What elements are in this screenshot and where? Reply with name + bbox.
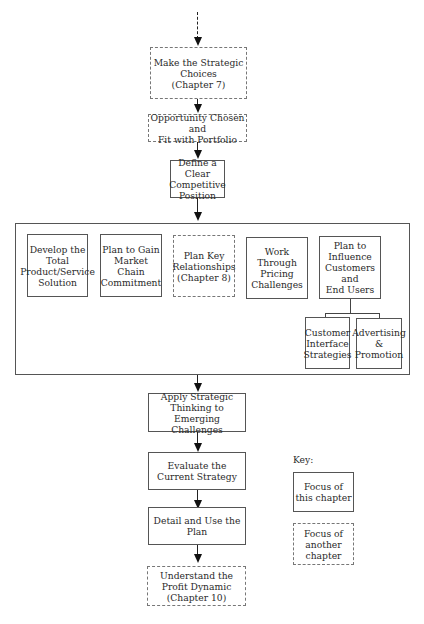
- define-competitive-position-box: Define a Clear Competitive Position: [170, 160, 225, 198]
- arrowhead-icon: [194, 212, 202, 221]
- profit-dynamic-text: Understand the Profit Dynamic (Chapter 1…: [160, 570, 233, 603]
- connector-line: [197, 198, 198, 213]
- tree-connector-horizontal: [325, 313, 380, 314]
- key-this-chapter-text: Focus of this chapter: [295, 481, 351, 503]
- advertising-promotion-box: Advertising & Promotion: [356, 318, 402, 369]
- arrowhead-icon: [194, 443, 202, 452]
- develop-solution-text: Develop the Total Product/Service Soluti…: [20, 244, 95, 288]
- pricing-challenges-text: Work Through Pricing Challenges: [251, 246, 303, 290]
- tree-connector-vertical: [350, 299, 351, 313]
- pricing-challenges-box: Work Through Pricing Challenges: [246, 237, 308, 299]
- arrowhead-icon: [194, 554, 202, 563]
- market-chain-text: Plan to Gain Market Chain Commitment: [101, 244, 161, 288]
- key-another-chapter-text: Focus of another chapter: [304, 528, 343, 561]
- key-relationships-text: Plan Key Relationships (Chapter 8): [172, 250, 235, 283]
- key-title: Key:: [293, 454, 313, 465]
- detail-plan-text: Detail and Use the Plan: [154, 515, 241, 537]
- make-strategic-choices-text: Make the Strategic Choices (Chapter 7): [154, 57, 244, 90]
- develop-solution-box: Develop the Total Product/Service Soluti…: [27, 234, 88, 297]
- apply-strategic-thinking-text: Apply Strategic Thinking to Emerging Cha…: [150, 391, 244, 435]
- key-this-chapter-box: Focus of this chapter: [293, 472, 354, 512]
- key-another-chapter-box: Focus of another chapter: [293, 523, 354, 565]
- key-relationships-box: Plan Key Relationships (Chapter 8): [173, 235, 235, 297]
- detail-plan-box: Detail and Use the Plan: [148, 507, 246, 545]
- opportunity-chosen-box: Opportunity Chosen and Fit with Portfoli…: [148, 114, 247, 142]
- profit-dynamic-box: Understand the Profit Dynamic (Chapter 1…: [147, 566, 246, 606]
- advertising-promotion-text: Advertising & Promotion: [352, 327, 406, 360]
- customer-interface-box: Customer Interface Strategies: [305, 317, 350, 369]
- make-strategic-choices-box: Make the Strategic Choices (Chapter 7): [150, 47, 247, 99]
- define-competitive-position-text: Define a Clear Competitive Position: [169, 157, 225, 201]
- opportunity-chosen-text: Opportunity Chosen and Fit with Portfoli…: [150, 112, 245, 145]
- customer-interface-text: Customer Interface Strategies: [304, 327, 352, 360]
- incoming-dashed-line: [197, 12, 198, 39]
- evaluate-strategy-box: Evaluate the Current Strategy: [148, 452, 246, 490]
- evaluate-strategy-text: Evaluate the Current Strategy: [157, 460, 237, 482]
- arrowhead-icon: [194, 37, 202, 46]
- connector-line: [197, 375, 198, 383]
- influence-customers-text: Plan to Influence Customers and End User…: [321, 240, 379, 295]
- apply-strategic-thinking-box: Apply Strategic Thinking to Emerging Cha…: [148, 393, 246, 432]
- market-chain-box: Plan to Gain Market Chain Commitment: [100, 234, 162, 297]
- influence-customers-box: Plan to Influence Customers and End User…: [319, 236, 381, 299]
